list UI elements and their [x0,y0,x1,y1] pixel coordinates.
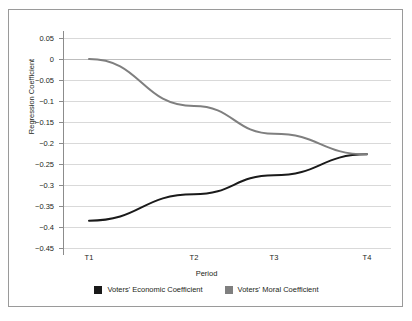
legend-swatch [225,286,233,294]
series-line [89,59,367,154]
series-lines [64,38,391,248]
y-tick-label: −0.45 [14,244,54,253]
chart-figure: Regression Coefficient Period 0.050−0.05… [8,9,403,307]
legend-label: Voters' Economic Coefficient [107,285,202,294]
y-tick-label: −0.2 [14,139,54,148]
y-tick-label: 0 [14,55,54,64]
y-tick-label: −0.15 [14,118,54,127]
x-tick-label: T2 [190,253,199,262]
x-axis-title: Period [9,269,404,278]
y-tick-label: −0.35 [14,202,54,211]
legend-label: Voters' Moral Coefficient [238,285,319,294]
legend-swatch [94,286,102,294]
legend-entry: Voters' Economic Coefficient [94,285,202,294]
y-tick-label: −0.4 [14,223,54,232]
plot-area [64,38,391,248]
y-tick-label: −0.25 [14,160,54,169]
legend-entry: Voters' Moral Coefficient [225,285,319,294]
x-tick-label: T4 [363,253,372,262]
y-tick-label: −0.05 [14,76,54,85]
y-tick-label: 0.05 [14,34,54,43]
chart-legend: Voters' Economic CoefficientVoters' Mora… [9,285,404,294]
series-line [89,154,367,220]
y-tick-label: −0.1 [14,97,54,106]
y-tick-label: −0.3 [14,181,54,190]
x-tick-label: T3 [270,253,279,262]
x-tick-label: T1 [85,253,94,262]
gridline [64,248,391,249]
